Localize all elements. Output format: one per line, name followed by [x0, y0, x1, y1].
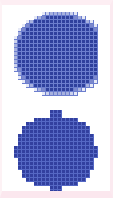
rendering-canvas [2, 5, 110, 191]
pixel-cell [94, 190, 98, 194]
antialiased-circle-shape [14, 12, 98, 96]
figure-container: Pixelated circle rendering comparison An… [0, 0, 113, 198]
pixel-cell [94, 92, 98, 96]
aliased-circle-shape [14, 110, 98, 194]
